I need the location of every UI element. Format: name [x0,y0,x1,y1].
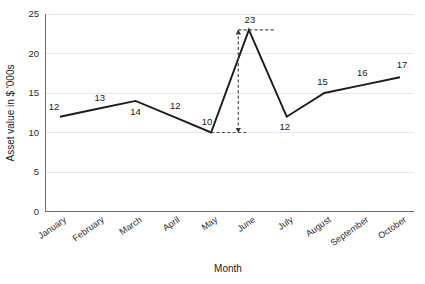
y-axis-title: Asset value in $ '000s [5,65,16,162]
y-tick-label-15: 15 [28,87,39,98]
point-label-march: 14 [130,106,141,117]
line-chart: 0510152025 JanuaryFebruaryMarchAprilMayJ… [0,0,425,284]
y-tick-label-25: 25 [28,8,39,19]
annotation-label-peak: 23 [245,14,256,25]
point-label-february: 13 [94,92,105,103]
point-label-august: 15 [317,76,328,87]
x-axis-title: Month [214,263,242,274]
point-label-january: 12 [49,101,60,112]
point-label-september: 16 [357,67,368,78]
y-tick-label-10: 10 [28,127,39,138]
point-label-april: 12 [170,100,181,111]
point-label-october: 17 [397,59,408,70]
y-tick-label-5: 5 [34,166,39,177]
y-tick-label-20: 20 [28,48,39,59]
chart-background [0,0,425,284]
chart-canvas: 0510152025 JanuaryFebruaryMarchAprilMayJ… [0,0,425,284]
y-tick-label-0: 0 [34,206,39,217]
point-label-july: 12 [279,121,290,132]
point-label-may: 10 [202,116,213,127]
